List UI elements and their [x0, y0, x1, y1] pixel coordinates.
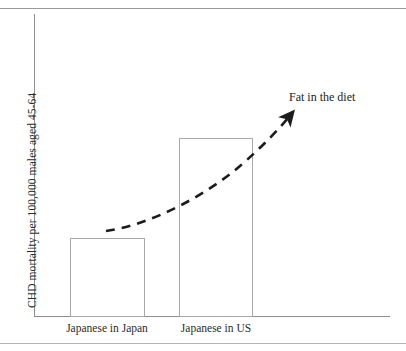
chart-figure: CHD mortality per 100,000 males aged 45-…: [0, 0, 406, 351]
frame-rule-bottom: [0, 343, 406, 344]
y-axis-label: CHD mortality per 100,000 males aged 45-…: [26, 78, 38, 308]
annotation-fat-in-the-diet: Fat in the diet: [289, 90, 355, 105]
bar-japanese-in-japan: [70, 238, 145, 317]
x-tick-label-japanese-in-us: Japanese in US: [166, 322, 266, 334]
x-tick-label-japanese-in-japan: Japanese in Japan: [57, 322, 157, 334]
bar-japanese-in-us: [179, 138, 253, 317]
frame-rule-top: [0, 8, 406, 9]
